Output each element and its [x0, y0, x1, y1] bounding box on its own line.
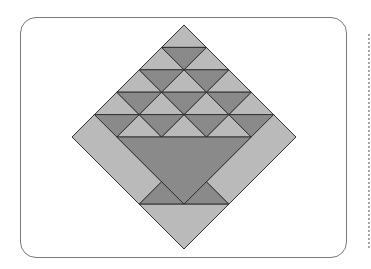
bottom-triangle — [139, 204, 229, 249]
basket-quilt-block — [0, 0, 371, 269]
light-triangle — [162, 25, 207, 47]
